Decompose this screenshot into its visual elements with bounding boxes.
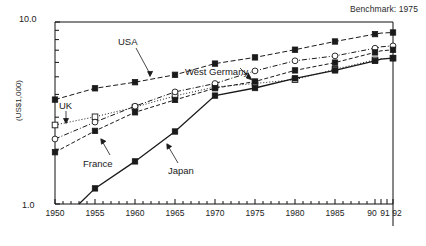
series-france-line bbox=[55, 46, 393, 139]
series-label-france: France bbox=[83, 158, 113, 169]
x-tick-label-1985: 1985 bbox=[326, 208, 345, 218]
x-tick-label-1950: 1950 bbox=[46, 208, 65, 218]
series-label-uk: UK bbox=[59, 100, 72, 111]
series-japan bbox=[79, 56, 396, 205]
chart-figure: Benchmark: 1975 (US$1,000) 10.0 1.0 1950… bbox=[0, 0, 426, 246]
series-label-west-germany: West Germany bbox=[185, 66, 248, 77]
series-japan-line bbox=[79, 58, 393, 204]
benchmark-annotation: Benchmark: 1975 bbox=[350, 4, 418, 14]
y-axis-ticks bbox=[55, 22, 60, 204]
x-tick-label-1965: 1965 bbox=[166, 208, 185, 218]
series-label-japan: Japan bbox=[168, 165, 194, 176]
x-tick-label-1975: 1975 bbox=[246, 208, 265, 218]
series-france-markers bbox=[52, 43, 396, 142]
x-tick-label-1980: 1980 bbox=[286, 208, 305, 218]
series-label-usa: USA bbox=[118, 36, 138, 47]
y-axis-label: (US$1,000) bbox=[14, 61, 23, 141]
x-axis-ticks bbox=[55, 199, 393, 204]
series-west-germany-markers bbox=[52, 47, 395, 155]
x-tick-label-1990: 90 bbox=[367, 208, 376, 218]
x-tick-label-1970: 1970 bbox=[206, 208, 225, 218]
series-france bbox=[52, 43, 396, 142]
x-tick-label-1992: 92 bbox=[392, 208, 401, 218]
series-west-germany bbox=[52, 47, 395, 155]
x-tick-label-1960: 1960 bbox=[126, 208, 145, 218]
x-tick-label-1991: 91 bbox=[380, 208, 389, 218]
y-tick-label-min: 1.0 bbox=[22, 200, 35, 210]
x-tick-label-1955: 1955 bbox=[86, 208, 105, 218]
y-tick-label-max: 10.0 bbox=[19, 14, 37, 24]
plot-frame bbox=[55, 22, 393, 226]
